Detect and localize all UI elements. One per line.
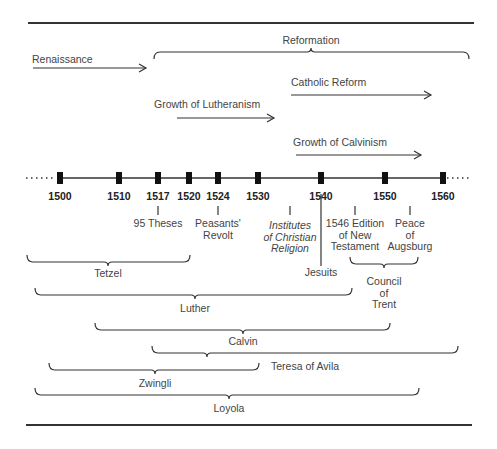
tick-mark (57, 172, 63, 184)
lifespan-brace (27, 255, 190, 266)
tick-label: 1520 (177, 190, 201, 202)
tick-mark (186, 172, 192, 184)
tick-mark (155, 172, 161, 184)
event: 95 Theses (134, 206, 183, 229)
timeline-canvas: RenaissanceReformationCatholic ReformGro… (0, 0, 497, 449)
tick-label: 1560 (431, 190, 455, 202)
movement-catholic-reform: Catholic Reform (291, 76, 431, 99)
event-label: Religion (271, 242, 309, 254)
tick-mark (318, 172, 324, 184)
tick-mark (116, 172, 122, 184)
movement-label: Catholic Reform (291, 76, 367, 88)
movement-label: Growth of Calvinism (293, 136, 387, 148)
event-label: Testament (331, 240, 380, 252)
tick-label: 1550 (373, 190, 397, 202)
event-label: Revolt (203, 229, 233, 241)
event-label: of Christian (263, 231, 316, 243)
person-tetzel: Tetzel (27, 255, 190, 279)
council-brace (350, 257, 418, 268)
movement-renaissance: Renaissance (32, 53, 146, 72)
movement-label: Growth of Lutheranism (154, 98, 260, 110)
person-luther: Luther (35, 288, 352, 314)
lifespan-brace (152, 346, 458, 357)
brace (154, 48, 469, 59)
event: 1546 Editionof NewTestament (326, 206, 385, 252)
lifespan-brace (35, 288, 352, 299)
arrow (296, 151, 421, 159)
event-label: Peace (395, 217, 425, 229)
reformation-timeline-diagram: RenaissanceReformationCatholic ReformGro… (0, 0, 497, 449)
event-label: 1546 Edition (326, 217, 385, 229)
tick-label: 1524 (206, 190, 230, 202)
council-label: of (380, 287, 389, 299)
event-label: Peasants' (195, 217, 241, 229)
event-label: of New (339, 229, 372, 241)
person-label: Loyola (214, 402, 245, 414)
person-label: Zwingli (139, 377, 172, 389)
person-zwingli: Zwingli (49, 363, 259, 389)
event: Institutesof ChristianReligion (263, 206, 316, 254)
lifespan-brace (35, 388, 419, 399)
person-label: Teresa of Avila (271, 360, 339, 372)
person-label: Calvin (228, 335, 257, 347)
movement-reformation: Reformation (154, 34, 469, 59)
event-label: of (406, 229, 415, 241)
council-label: Trent (372, 298, 396, 310)
tick-mark (215, 172, 221, 184)
event-label: Jesuits (305, 266, 338, 278)
events-layer: 95 ThesesPeasants'RevoltInstitutesof Chr… (134, 194, 433, 310)
event: Peasants'Revolt (195, 206, 241, 241)
movement-growth-of-calvinism: Growth of Calvinism (293, 136, 421, 159)
council-label: Council (366, 275, 401, 287)
movements-layer: RenaissanceReformationCatholic ReformGro… (32, 34, 469, 159)
person-teresa-of-avila: Teresa of Avila (152, 346, 458, 372)
event-label: Institutes (269, 219, 312, 231)
lifespan-brace (95, 323, 390, 334)
person-calvin: Calvin (95, 323, 390, 347)
arrow (33, 64, 146, 72)
tick-mark (440, 172, 446, 184)
person-loyola: Loyola (35, 388, 419, 414)
event: PeaceofAugsburg (388, 206, 433, 252)
tick-label: 1530 (246, 190, 270, 202)
event-label: 95 Theses (134, 217, 183, 229)
timeline-axis: 150015101517152015241530154015501560 (26, 172, 472, 202)
event-label: Augsburg (388, 240, 433, 252)
movement-growth-of-lutheranism: Growth of Lutheranism (154, 98, 274, 122)
lifespan-brace (49, 363, 259, 374)
council-of-trent: CouncilofTrent (350, 257, 418, 310)
person-label: Tetzel (94, 267, 121, 279)
tick-mark (255, 172, 261, 184)
arrow (291, 91, 431, 99)
tick-mark (382, 172, 388, 184)
tick-label: 1510 (107, 190, 131, 202)
arrow (177, 114, 274, 122)
tick-label: 1517 (146, 190, 170, 202)
movement-label: Reformation (282, 34, 339, 46)
tick-label: 1500 (48, 190, 72, 202)
person-label: Luther (180, 302, 210, 314)
movement-label: Renaissance (32, 53, 93, 65)
